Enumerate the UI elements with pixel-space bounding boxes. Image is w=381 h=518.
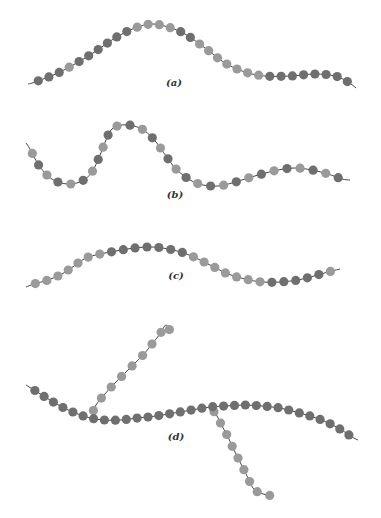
- monomer-bead-dark: [288, 71, 297, 80]
- monomer-bead-light: [244, 173, 253, 182]
- monomer-bead-light: [128, 361, 137, 370]
- monomer-bead-light: [31, 279, 40, 288]
- monomer-bead-light: [157, 328, 166, 337]
- monomer-bead-light: [239, 465, 248, 474]
- monomer-bead-dark: [100, 415, 109, 424]
- monomer-bead-dark: [309, 166, 318, 175]
- monomer-bead-dark: [186, 33, 195, 42]
- monomer-bead-light: [189, 252, 198, 261]
- monomer-bead-dark: [284, 405, 293, 414]
- monomer-bead-dark: [279, 277, 288, 286]
- monomer-bead-light: [204, 46, 213, 55]
- monomer-bead-light: [172, 165, 181, 174]
- monomer-bead-light: [133, 23, 142, 32]
- monomer-bead-light: [155, 20, 164, 29]
- monomer-bead-light: [265, 491, 274, 500]
- monomer-bead-light: [270, 166, 279, 175]
- monomer-bead-light: [243, 68, 252, 77]
- monomer-bead-light: [222, 60, 231, 69]
- monomer-bead-dark: [53, 177, 62, 186]
- monomer-bead-light: [321, 169, 330, 178]
- monomer-bead-dark: [75, 57, 84, 66]
- monomer-bead-dark: [122, 415, 131, 424]
- monomer-bead-light: [28, 149, 37, 158]
- monomer-bead-dark: [58, 403, 67, 412]
- monomer-bead-dark: [154, 243, 163, 252]
- monomer-bead-light: [107, 382, 116, 391]
- monomer-bead-light: [193, 179, 202, 188]
- monomer-bead-light: [222, 430, 231, 439]
- monomer-bead-dark: [263, 402, 272, 411]
- monomer-bead-dark: [299, 70, 308, 79]
- monomer-bead-dark: [125, 121, 134, 130]
- monomer-bead-dark: [197, 404, 206, 413]
- monomer-bead-light: [216, 418, 225, 427]
- monomer-bead-dark: [333, 72, 342, 81]
- monomer-bead-light: [232, 64, 241, 73]
- monomer-bead-light: [165, 325, 174, 334]
- monomer-bead-dark: [252, 401, 261, 410]
- monomer-bead-light: [219, 181, 228, 190]
- monomer-bead-dark: [163, 154, 172, 163]
- monomer-bead-light: [166, 23, 175, 32]
- monomer-bead-dark: [176, 27, 185, 36]
- monomer-bead-dark: [314, 270, 323, 279]
- monomer-bead-dark: [104, 131, 113, 140]
- monomer-bead-light: [213, 53, 222, 62]
- monomer-bead-light: [64, 265, 73, 274]
- monomer-bead-dark: [303, 273, 312, 282]
- monomer-bead-dark: [107, 247, 116, 256]
- monomer-bead-dark: [322, 70, 331, 79]
- monomer-bead-dark: [34, 160, 43, 169]
- monomer-bead-dark: [176, 407, 185, 416]
- monomer-bead-dark: [84, 51, 93, 60]
- monomer-bead-dark: [55, 68, 64, 77]
- monomer-bead-light: [138, 125, 147, 134]
- monomer-bead-dark: [277, 72, 286, 81]
- monomer-bead-dark: [178, 248, 187, 257]
- monomer-bead-dark: [94, 45, 103, 54]
- monomer-bead-light: [296, 164, 305, 173]
- monomer-bead-light: [156, 143, 165, 152]
- monomer-bead-dark: [282, 164, 291, 173]
- monomer-bead-light: [255, 277, 264, 286]
- monomer-bead-dark: [291, 276, 300, 285]
- monomer-bead-light: [245, 477, 254, 486]
- monomer-bead-dark: [316, 415, 325, 424]
- monomer-bead-light: [95, 250, 104, 259]
- monomer-bead-light: [221, 268, 230, 277]
- monomer-bead-light: [244, 275, 253, 284]
- panel-label-d: (d): [168, 431, 185, 442]
- monomer-bead-light: [84, 253, 93, 262]
- monomer-bead-dark: [94, 155, 103, 164]
- panel-label-b: (b): [167, 189, 184, 200]
- monomer-bead-light: [42, 276, 51, 285]
- monomer-bead-dark: [119, 245, 128, 254]
- monomer-bead-light: [112, 122, 121, 131]
- monomer-bead-dark: [257, 170, 266, 179]
- monomer-bead-dark: [265, 72, 274, 81]
- monomer-bead-dark: [133, 414, 142, 423]
- monomer-bead-dark: [122, 27, 131, 36]
- monomer-bead-dark: [111, 416, 120, 425]
- monomer-bead-light: [232, 272, 241, 281]
- monomer-bead-dark: [206, 181, 215, 190]
- monomer-bead-light: [138, 351, 147, 360]
- monomer-bead-dark: [79, 176, 88, 185]
- monomer-bead-dark: [187, 406, 196, 415]
- monomer-bead-dark: [40, 392, 49, 401]
- monomer-bead-dark: [131, 243, 140, 252]
- monomer-bead-light: [117, 372, 126, 381]
- monomer-bead-light: [53, 271, 62, 280]
- monomer-bead-dark: [165, 409, 174, 418]
- monomer-bead-dark: [103, 39, 112, 48]
- monomer-bead-dark: [44, 72, 53, 81]
- monomer-bead-dark: [142, 242, 151, 251]
- monomer-bead-dark: [230, 401, 239, 410]
- monomer-bead-light: [89, 406, 98, 415]
- monomer-bead-dark: [182, 173, 191, 182]
- panel-label-c: (c): [168, 270, 184, 281]
- copolymer-diagram: (a) (b) (c) (d): [0, 0, 381, 518]
- monomer-bead-dark: [274, 403, 283, 412]
- monomer-bead-light: [88, 167, 97, 176]
